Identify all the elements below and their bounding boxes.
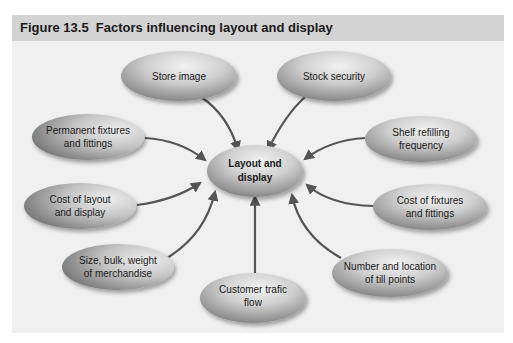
node-label-line1: Number and location [344,261,436,272]
arrow-size-bulk [167,192,215,258]
node-shelf-refilling: Shelf refilling frequency [365,116,477,162]
node-label-line2: of till points [365,274,415,285]
node-label-line1: Customer trafic [219,284,287,295]
arrow-cost-layout [137,183,200,205]
node-label-line1: Shelf refilling [392,127,449,138]
center-label-line2: display [238,172,273,183]
node-cost-layout: Cost of layout and display [24,183,136,229]
node-size-bulk: Size, bulk, weight of merchandise [62,244,174,290]
node-label-line2: and fittings [64,138,112,149]
node-customer-traffic: Customer trafic flow [200,273,306,323]
node-label-line1: Cost of fixtures [397,195,464,206]
node-label: Store image [152,71,206,82]
node-label-line2: frequency [399,140,443,151]
diagram-canvas: Layout and display Store image Stock sec… [0,0,513,343]
node-cost-fixtures: Cost of fixtures and fittings [373,184,487,230]
arrow-store-image [201,97,238,150]
node-till-points: Number and location of till points [332,249,448,297]
node-label-line2: of merchandise [84,268,153,279]
center-label-line1: Layout and [228,158,281,169]
arrow-shelf-refilling [305,138,365,159]
node-stock-security: Stock security [277,51,391,101]
node-label-line2: and display [55,207,106,218]
node-label-line2: and fittings [406,208,454,219]
node-label-line2: flow [244,297,263,308]
arrow-stock-security [268,97,305,150]
arrow-cost-fixtures [307,185,373,206]
node-label-line1: Cost of layout [49,194,110,205]
arrow-permanent-fixtures [145,138,205,160]
node-center-layout-display: Layout and display [207,145,303,197]
node-label: Stock security [303,71,365,82]
node-store-image: Store image [121,51,237,101]
node-label-line1: Permanent fixtures [46,125,130,136]
node-label-line1: Size, bulk, weight [79,255,157,266]
arrow-till-points [292,195,341,258]
node-permanent-fixtures: Permanent fixtures and fittings [32,114,144,160]
